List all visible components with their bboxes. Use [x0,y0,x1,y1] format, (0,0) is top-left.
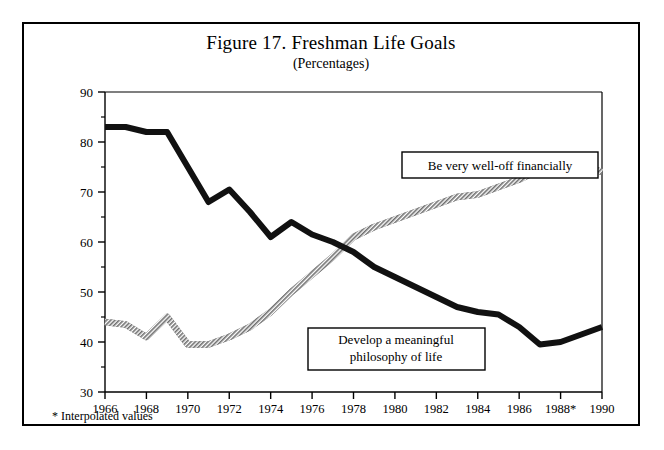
y-tick-label: 60 [80,235,93,250]
annotation-label-philosophy-line2: philosophy of life [350,349,443,364]
x-tick-label: 1986 [507,402,532,416]
annotation-label-philosophy-line1: Develop a meaningful [338,332,454,347]
annotation-develop-a-meaningful-philosophy-of-life: Develop a meaningful philosophy of life [308,328,485,370]
annotation-be-very-well-off-financially: Be very well-off financially [402,152,598,178]
x-tick-label: 1980 [382,402,407,416]
plot-area: 30405060708090 1966196819701972197419761… [24,24,642,428]
x-axis-ticks: 1966196819701972197419761978198019821984… [93,392,615,416]
x-tick-label: 1988* [545,402,576,416]
y-tick-label: 40 [80,335,93,350]
y-axis-ticks: 30405060708090 [80,85,105,400]
figure-frame: Figure 17. Freshman Life Goals (Percenta… [22,22,640,426]
x-tick-label: 1978 [341,402,366,416]
chart-svg: 30405060708090 1966196819701972197419761… [24,24,642,428]
x-tick-label: 1974 [258,402,284,416]
y-tick-label: 30 [80,385,93,400]
y-tick-label: 50 [80,285,93,300]
x-tick-label: 1976 [300,402,325,416]
y-tick-label: 80 [80,135,93,150]
y-tick-label: 70 [80,185,93,200]
y-tick-label: 90 [80,85,93,100]
annotation-label-well-off: Be very well-off financially [428,158,573,173]
x-tick-label: 1972 [217,402,242,416]
footnote: * Interpolated values [52,409,153,423]
x-tick-label: 1970 [175,402,200,416]
x-tick-label: 1990 [590,402,615,416]
x-tick-label: 1982 [424,402,449,416]
x-tick-label: 1984 [465,402,491,416]
